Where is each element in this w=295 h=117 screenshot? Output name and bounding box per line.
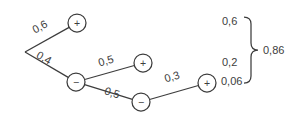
total-value: 0,86	[263, 44, 284, 56]
result-column: 0,6 0,2 0,06 0,86	[221, 15, 284, 87]
edge-labels: 0,6 0,4 0,5 0,5 0,3	[30, 18, 181, 101]
node-minus-1: −	[67, 73, 85, 91]
node-plus-3-sign: +	[204, 77, 210, 89]
node-plus-3: +	[198, 74, 216, 92]
node-minus-2-sign: −	[138, 96, 144, 108]
node-minus-1-sign: −	[73, 76, 79, 88]
diagram-svg: 0,6 0,4 0,5 0,5 0,3 + − + −	[0, 0, 295, 117]
probability-tree-diagram: 0,6 0,4 0,5 0,5 0,3 + − + −	[0, 0, 295, 117]
edge-label-0-5-top: 0,5	[97, 53, 115, 69]
edge-label-0-4: 0,4	[35, 49, 54, 67]
node-plus-1: +	[68, 14, 86, 32]
edge-label-0-3: 0,3	[163, 69, 181, 85]
edge-minus1-to-plus2	[85, 66, 135, 80]
edge-label-0-5-bottom: 0,5	[103, 85, 121, 101]
node-plus-2: +	[134, 54, 152, 72]
edge-minus2-to-plus3	[150, 86, 199, 100]
result-value-3: 0,06	[221, 75, 242, 87]
edge-label-0-6: 0,6	[30, 18, 49, 36]
node-minus-2: −	[132, 93, 150, 111]
result-value-2: 0,2	[222, 56, 237, 68]
node-plus-2-sign: +	[140, 57, 146, 69]
curly-brace	[244, 17, 258, 83]
node-plus-1-sign: +	[74, 17, 80, 29]
result-value-1: 0,6	[222, 15, 237, 27]
edge-root-to-plus1	[25, 27, 69, 52]
tree-nodes: + − + − +	[67, 14, 216, 111]
